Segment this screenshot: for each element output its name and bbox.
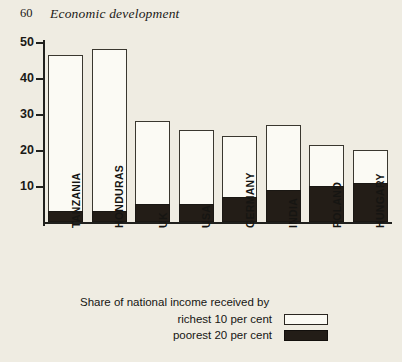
legend-label-poorest: poorest 20 per cent	[173, 329, 272, 341]
y-tick-label: 50	[6, 36, 34, 49]
y-tick-label: 20	[6, 144, 34, 157]
x-label-india: INDIA	[287, 198, 299, 228]
page-running-header: 60 Economic development	[0, 6, 402, 24]
y-tick-mark	[36, 150, 43, 152]
y-tick-mark	[36, 42, 43, 44]
x-label-uk: UK	[157, 212, 169, 228]
y-tick-label: 30	[6, 108, 34, 121]
x-label-germany: GERMANY	[244, 172, 256, 228]
y-tick-label: 10	[6, 180, 34, 193]
x-label-honduras: HONDURAS	[113, 165, 125, 228]
y-tick-label: 40	[6, 72, 34, 85]
x-label-poland: POLAND	[331, 182, 343, 228]
legend-title: Share of national income received by	[80, 296, 269, 308]
legend-item-poorest: poorest 20 per cent	[80, 329, 340, 344]
legend-label-richest: richest 10 per cent	[177, 313, 272, 325]
legend-item-richest: richest 10 per cent	[80, 313, 340, 328]
y-tick-mark	[36, 114, 43, 116]
x-label-tanzania: TANZANIA	[70, 173, 82, 228]
x-label-hungary: HUNGARY	[374, 173, 386, 228]
chapter-title: Economic development	[50, 6, 180, 22]
x-label-usa: USA	[200, 205, 212, 228]
income-distribution-bar-chart: 1020304050 TANZANIAHONDURASUKUSAGERMANYI…	[0, 24, 402, 362]
legend-swatch-richest	[284, 314, 328, 325]
y-tick-mark	[36, 78, 43, 80]
y-tick-mark	[36, 186, 43, 188]
legend-swatch-poorest	[284, 330, 328, 341]
bar-uk	[135, 121, 170, 222]
page-number: 60	[20, 6, 33, 21]
